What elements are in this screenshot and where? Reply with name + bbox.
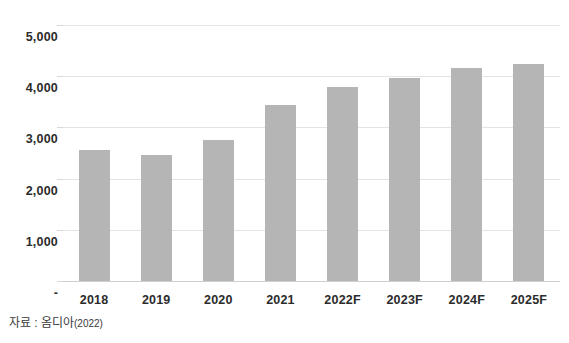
x-tick-label-2018: 2018: [61, 293, 127, 307]
y-tick-mark-3000: [57, 127, 63, 128]
bar-2025F: [513, 64, 544, 281]
x-tick-label-2019: 2019: [123, 293, 189, 307]
x-tick-label-2023F: 2023F: [372, 293, 438, 307]
bar-2023F: [389, 78, 420, 281]
y-tick-mark-1000: [57, 230, 63, 231]
x-tick-label-2024F: 2024F: [434, 293, 500, 307]
y-tick-label-5000: 5,000: [0, 30, 58, 44]
bar-2020: [203, 140, 234, 281]
bar-chart: -1,0002,0003,0004,0005,000 2018201920202…: [0, 0, 569, 343]
x-tick-label-2025F: 2025F: [496, 293, 562, 307]
x-tick-label-2021: 2021: [247, 293, 313, 307]
bar-2022F: [327, 87, 358, 281]
y-tick-mark-4000: [57, 76, 63, 77]
y-tick-mark-0: [57, 281, 63, 282]
x-axis-labels: 20182019202020212022F2023F2024F2025F: [63, 293, 560, 313]
y-tick-mark-5000: [57, 25, 63, 26]
bar-2024F: [451, 68, 482, 281]
x-tick-label-2020: 2020: [185, 293, 251, 307]
bars-layer: [63, 12, 560, 294]
y-tick-label-2000: 2,000: [0, 184, 58, 198]
y-tick-mark-2000: [57, 179, 63, 180]
bar-2018: [79, 150, 110, 281]
bar-2021: [265, 105, 296, 281]
y-tick-label-0: -: [0, 286, 58, 300]
source-year-text: (2022): [74, 318, 103, 329]
y-tick-label-3000: 3,000: [0, 132, 58, 146]
source-prefix-text: 자료 : 옴디아: [9, 316, 74, 330]
y-tick-label-4000: 4,000: [0, 81, 58, 95]
source-note: 자료 : 옴디아(2022): [9, 313, 103, 330]
y-tick-label-1000: 1,000: [0, 235, 58, 249]
plot-area: [63, 12, 560, 294]
bar-2019: [141, 155, 172, 281]
y-axis-labels: -1,0002,0003,0004,0005,000: [0, 12, 58, 294]
x-tick-label-2022F: 2022F: [310, 293, 376, 307]
